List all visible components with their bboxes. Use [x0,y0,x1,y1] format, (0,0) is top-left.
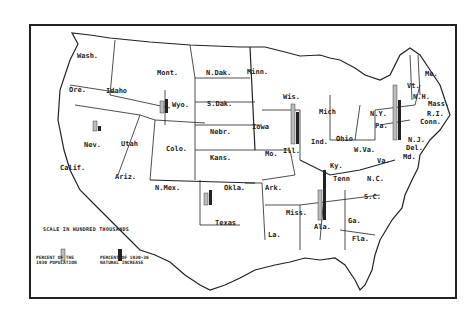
label-miss: Miss. [286,209,307,217]
legend-population-caption: PERCENT OF THE 1930 POPULATION [36,255,77,265]
label-me: Me. [425,70,438,78]
label-okla: Okla. [224,184,245,192]
label-ind: Ind. [311,138,328,146]
label-idaho: Idaho [106,87,127,95]
label-vt: Vt. [407,82,420,90]
label-nj: N.J. [408,136,425,144]
label-texas: Texas [215,219,236,227]
bar-charts [61,85,401,261]
label-md: Md. [403,153,416,161]
label-minn: Minn. [247,68,268,76]
label-mont: Mont. [157,69,178,77]
label-la: La. [268,231,281,239]
label-ohio: Ohio [336,135,353,143]
label-iowa: Iowa [252,123,269,131]
label-ark: Ark. [265,184,282,192]
label-colo: Colo. [166,145,187,153]
label-sdak: S.Dak. [207,100,232,108]
label-conn: Conn. [420,118,441,126]
label-ore: Ore. [69,86,86,94]
label-ill: Ill. [283,147,300,155]
label-kans: Kans. [210,154,231,162]
legend-title: SCALE IN HUNDRED THOUSANDS [43,226,129,232]
label-nc: N.C. [367,175,384,183]
label-ky: Ky. [330,162,343,170]
label-nev: Nev. [84,141,101,149]
label-nebr: Nebr. [210,128,231,136]
label-ala: Ala. [314,223,331,231]
label-wva: W.Va. [354,146,375,154]
label-ndak: N.Dak. [206,69,231,77]
label-del: Del. [406,144,423,152]
label-mass: Mass. [428,100,449,108]
legend-increase-caption: PERCENT OF 1930-36 NATURAL INCREASE [100,255,149,265]
label-fla: Fla. [352,235,369,243]
label-wis: Wis. [283,93,300,101]
label-utah: Utah [121,140,138,148]
label-pa: Pa. [375,122,388,130]
label-ga: Ga. [348,217,361,225]
label-wyo: Wyo. [172,101,189,109]
label-sc: S.C. [364,193,381,201]
label-nmex: N.Mex. [155,184,180,192]
label-va: Va. [377,157,390,165]
label-mo: Mo. [265,150,278,158]
label-calif: Calif. [60,164,85,172]
label-ny: N.Y. [370,110,387,118]
label-ri: R.I. [427,110,444,118]
label-wash: Wash. [77,52,98,60]
label-ariz: Ariz. [115,173,136,181]
label-mich: Mich [319,108,336,116]
label-tenn: Tenn [333,175,350,183]
